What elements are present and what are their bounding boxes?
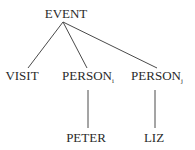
node-liz-label: LIZ [144, 130, 164, 145]
node-visit: VISIT [5, 69, 38, 83]
node-event: EVENT [45, 7, 88, 21]
node-person-i-label: PERSON [62, 68, 112, 83]
node-liz: LIZ [144, 131, 164, 145]
node-peter-label: PETER [66, 130, 106, 145]
edge-event-person-j [63, 22, 157, 68]
node-person-i-subscript: i [112, 77, 114, 85]
edge-event-person-i [63, 22, 87, 68]
node-visit-label: VISIT [5, 68, 38, 83]
node-person-j-label: PERSON [131, 68, 181, 83]
node-person-i: PERSONi [62, 69, 114, 83]
node-event-label: EVENT [45, 6, 88, 21]
edge-event-visit [28, 22, 63, 68]
node-peter: PETER [66, 131, 106, 145]
node-person-j: PERSONj [131, 69, 183, 83]
node-person-j-subscript: j [181, 77, 183, 85]
